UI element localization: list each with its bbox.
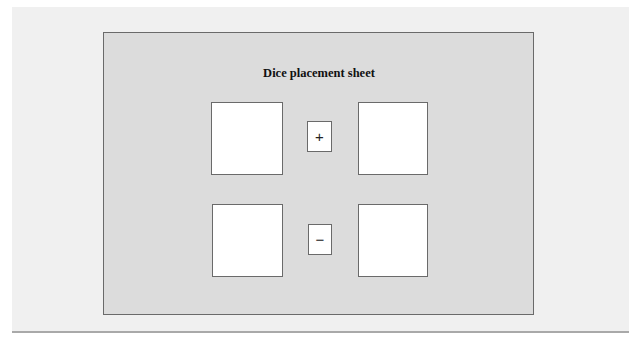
die-slot-bottom-right[interactable]	[358, 204, 428, 277]
minus-icon: −	[308, 224, 332, 255]
die-slot-top-left[interactable]	[211, 102, 283, 175]
die-slot-top-right[interactable]	[358, 102, 428, 175]
plus-icon: +	[307, 121, 332, 152]
sheet-title: Dice placement sheet	[103, 66, 535, 81]
die-slot-bottom-left[interactable]	[212, 204, 283, 277]
